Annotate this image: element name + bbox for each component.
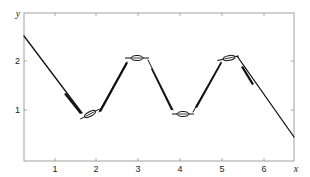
x-axis-label: x — [293, 163, 299, 174]
y-tick-label: 2 — [15, 56, 20, 66]
x-ticks — [55, 13, 264, 161]
x-tick-label: 6 — [261, 164, 266, 174]
x-tick-labels: 1 2 3 4 5 6 — [52, 164, 266, 174]
x-tick-label: 4 — [177, 164, 182, 174]
ellipse-marker — [172, 112, 194, 117]
y-tick-label: 1 — [15, 105, 20, 115]
ellipse-marker — [125, 56, 149, 61]
ellipse-marker — [217, 54, 240, 63]
x-tick-label: 1 — [52, 164, 57, 174]
y-axis-label: y — [15, 8, 21, 19]
x-tick-label: 2 — [93, 164, 98, 174]
series-path — [24, 36, 294, 137]
y-ticks — [24, 61, 294, 110]
chart-canvas: 1 2 3 4 5 6 2 1 y x — [0, 0, 310, 177]
y-tick-labels: 2 1 — [15, 56, 20, 115]
x-tick-label: 5 — [219, 164, 224, 174]
ellipse-marker — [79, 107, 101, 121]
x-tick-label: 3 — [135, 164, 140, 174]
plot-frame — [24, 13, 294, 161]
